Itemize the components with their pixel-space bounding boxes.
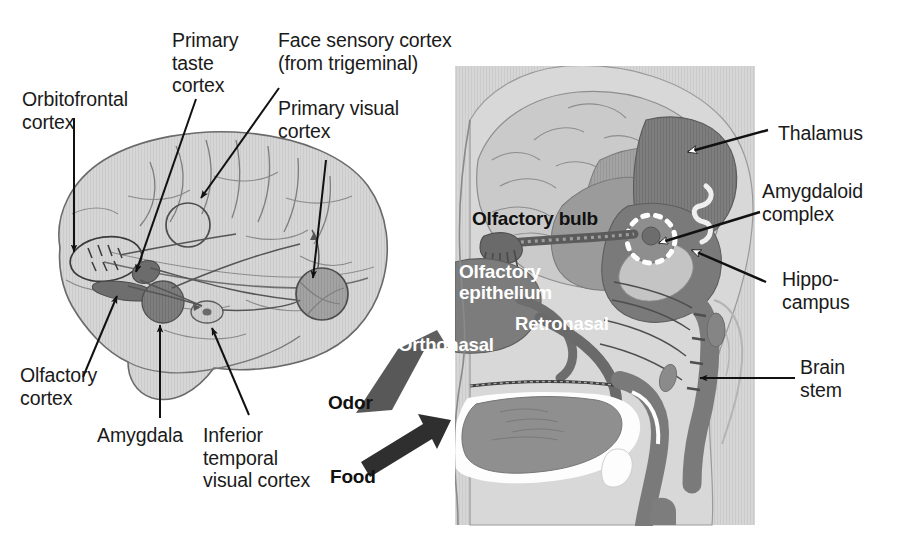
label-primary-taste-cortex: Primary taste cortex (172, 29, 238, 97)
figure-canvas: Orbitofrontal cortex Primary taste corte… (0, 0, 907, 548)
label-olfactory-cortex: Olfactory cortex (20, 364, 97, 409)
label-olfactory-bulb: Olfactory bulb (472, 208, 598, 229)
left-brain-illustration (0, 0, 907, 548)
amygdaloid-complex-region (627, 215, 675, 263)
label-olfactory-epithelium: Olfactory epithelium (459, 261, 552, 303)
label-primary-visual-cortex: Primary visual cortex (278, 97, 399, 142)
primary-visual-cortex-region (296, 268, 348, 320)
amygdala-region (142, 281, 184, 323)
brain-lateral-outline (59, 132, 387, 400)
label-hippocampus: Hippo- campus (782, 268, 850, 313)
label-brain-stem: Brain stem (800, 356, 845, 401)
label-amygdaloid-complex: Amygdaloid complex (762, 180, 863, 225)
label-thalamus: Thalamus (778, 122, 863, 145)
label-face-sensory-cortex: Face sensory cortex (from trigeminal) (278, 29, 452, 74)
label-orbitofrontal-cortex: Orbitofrontal cortex (22, 88, 128, 133)
label-retronasal: Retronasal (515, 313, 609, 334)
label-orthonasal: Orthonasal (398, 334, 494, 355)
label-odor: Odor (328, 392, 373, 413)
label-amygdala: Amygdala (97, 424, 183, 447)
label-inferior-temporal-visual-cortex: Inferior temporal visual cortex (203, 424, 310, 492)
label-food: Food (330, 466, 376, 487)
